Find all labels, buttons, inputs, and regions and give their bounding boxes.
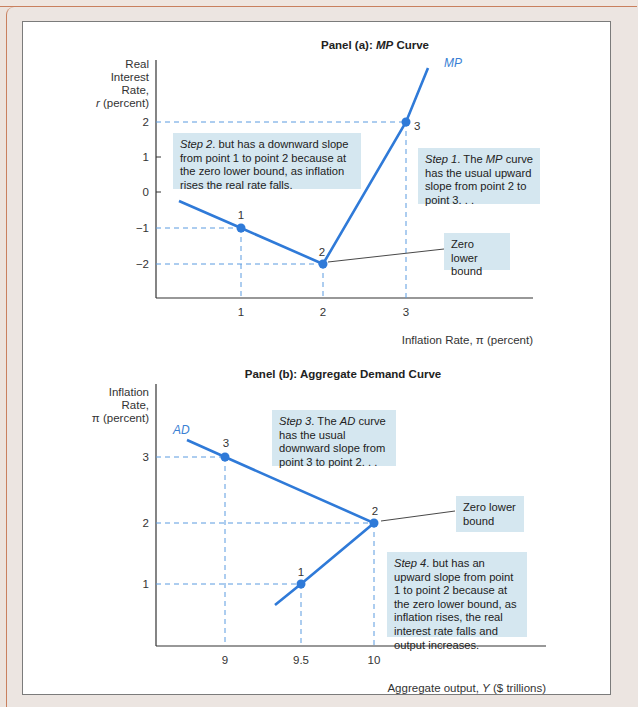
ad-point-3 — [221, 453, 230, 462]
svg-text:3: 3 — [403, 306, 409, 318]
mp-point-3 — [402, 118, 411, 127]
svg-text:1: 1 — [238, 306, 244, 318]
mp-point-1-label: 1 — [238, 209, 244, 221]
mp-point-1 — [237, 224, 246, 233]
svg-text:9.5: 9.5 — [293, 654, 309, 666]
ad-point-1-label: 1 — [298, 566, 304, 578]
svg-text:Rate,: Rate, — [122, 399, 150, 411]
mp-point-3-label: 3 — [414, 120, 420, 132]
step4-note: Step 4. but has an upward slope from poi… — [387, 552, 527, 637]
step2-note: Step 2. but has a downward slope from po… — [173, 133, 361, 189]
step3-note: Step 3. The AD curve has the usual downw… — [272, 410, 396, 466]
ad-point-1 — [297, 580, 306, 589]
mp-point-2 — [319, 260, 328, 269]
svg-text:1: 1 — [143, 578, 149, 590]
panel-a-title: Panel (a): MP Curve — [321, 39, 429, 51]
panel-b-x-axis-label: Aggregate output, Y ($ trillions) — [387, 682, 546, 694]
panel-b-y-ticks: 3 2 1 — [143, 451, 149, 590]
step1-note: Step 1. The MP curve has the usual upwar… — [418, 148, 540, 204]
svg-text:2: 2 — [320, 306, 326, 318]
panel-a-y-axis-label: Real Interest Rate, r (percent) — [96, 58, 150, 109]
ad-curve-label: AD — [172, 423, 190, 437]
svg-text:−2: −2 — [136, 258, 149, 270]
mp-point-2-label: 2 — [319, 246, 325, 258]
svg-text:π (percent): π (percent) — [92, 412, 149, 424]
svg-text:9: 9 — [222, 654, 228, 666]
svg-text:1: 1 — [143, 151, 149, 163]
ad-point-3-label: 3 — [223, 437, 229, 449]
svg-text:3: 3 — [143, 451, 149, 463]
svg-text:Rate,: Rate, — [122, 84, 150, 96]
svg-text:Interest: Interest — [111, 71, 150, 83]
svg-text:0: 0 — [143, 186, 149, 198]
panel-a-zlb-note: Zero lower bound — [444, 233, 510, 270]
svg-text:10: 10 — [368, 654, 381, 666]
panel-a-x-axis-label: Inflation Rate, π (percent) — [402, 334, 533, 346]
svg-text:2: 2 — [143, 116, 149, 128]
svg-text:−1: −1 — [136, 222, 149, 234]
svg-text:Inflation: Inflation — [109, 386, 149, 398]
mp-curve-label: MP — [444, 56, 462, 70]
panel-a-zlb-leader — [328, 249, 444, 262]
panel-b-zlb-note: Zero lower bound — [456, 496, 524, 532]
panel-b-x-ticks: 9 9.5 10 — [222, 654, 381, 666]
panel-b-y-axis-label: Inflation Rate, π (percent) — [92, 386, 149, 424]
panel-b-title: Panel (b): Aggregate Demand Curve — [245, 368, 441, 380]
panel-b-zlb-leader — [381, 511, 455, 521]
panel-a-y-ticks: 2 1 0 −1 −2 — [136, 116, 161, 270]
svg-text:Real: Real — [125, 58, 149, 70]
svg-text:r (percent): r (percent) — [96, 97, 149, 109]
ad-point-2-label: 2 — [372, 505, 378, 517]
ad-point-2 — [370, 519, 379, 528]
panel-a-x-ticks: 1 2 3 — [238, 306, 409, 318]
svg-text:2: 2 — [143, 517, 149, 529]
